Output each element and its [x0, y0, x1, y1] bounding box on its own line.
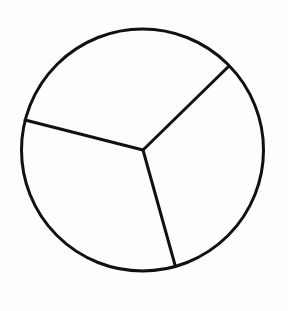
circle-sector-diagram [0, 0, 288, 311]
radius-line-bottom [143, 150, 175, 265]
diagram-canvas [0, 0, 288, 311]
radius-line-left [25, 120, 143, 150]
radius-line-upper-right [143, 67, 228, 150]
